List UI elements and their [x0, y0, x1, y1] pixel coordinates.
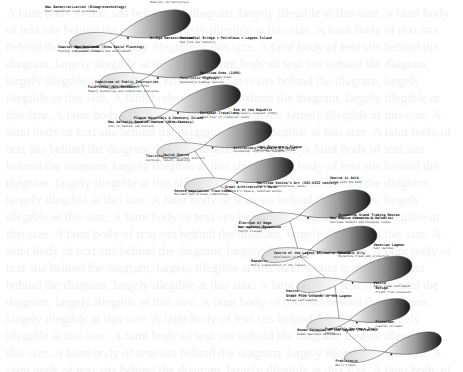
cascading-loops-diagram: New Decentralization (Bioagrotechnology)… — [0, 0, 463, 372]
loop-label-sub: Trade with the East — [330, 180, 362, 184]
loop-label-sub: City of fashion and tourism — [108, 124, 154, 128]
arrow-marker — [391, 354, 393, 356]
loop-label-sub: Post-capitalist local economies — [45, 9, 98, 13]
loop-label-sub: Education and governance reforms — [95, 84, 149, 88]
loop-8: Centre of the Lagoon (Rivoalto Islands)S… — [274, 243, 412, 297]
loop-10: Prehistoric Northern ItalyVenetiPrehisto… — [325, 327, 441, 367]
loop-label-sub: Lost maritime power — [200, 75, 232, 79]
loop-label-sub: Automobile highway network — [180, 80, 224, 84]
loop-label-sub: Early organization of the lagoon — [251, 263, 305, 267]
loop-label-sub: Segregated urban district — [163, 156, 205, 160]
loop-lobe-right — [345, 256, 412, 283]
loop-label-sub: Lazzaretto islands and quarantine — [134, 120, 190, 124]
loop-label-sub: Merchant and artisan communities — [174, 192, 228, 196]
loop-label-sub: Decline of trade routes — [257, 148, 296, 152]
arrow-marker — [307, 217, 309, 219]
arrow-marker — [352, 282, 354, 284]
arrow-marker — [157, 77, 159, 79]
loop-lobe-right — [120, 10, 190, 38]
loop-label-sub: Coastal villages — [376, 324, 403, 328]
loop-label-sub: Early tribes — [335, 363, 356, 367]
arrow-marker — [177, 112, 179, 114]
loop-label-sub: Regional planning and development — [75, 49, 131, 53]
loop-label-sub: Salt marshes — [374, 246, 395, 250]
loop-label-sub: Sea link and industry — [180, 40, 216, 44]
loop-label-sub: St. Mark's Square, Venetian Gothic — [225, 189, 283, 193]
loop-lobe-right — [350, 299, 410, 323]
loop-lobe-right — [310, 226, 377, 253]
loop-label-sub: Settlement of Rialto — [274, 255, 308, 259]
loop-lobe-right — [385, 332, 441, 354]
loop-label-sub: Refuge settlements — [286, 298, 317, 302]
loops-layer: New Decentralization (Bioagrotechnology)… — [45, 0, 441, 367]
arrow-marker — [236, 182, 238, 184]
loop-label-sub: Emergence of statehood — [239, 225, 276, 229]
arrow-marker — [356, 322, 358, 324]
loop-lobe-right — [170, 85, 240, 113]
loop-label-sub: Fourth Crusade — [238, 229, 262, 233]
arrow-marker — [212, 147, 214, 149]
loop-lobe-right — [230, 157, 293, 182]
loop-label-sub: Modern technology and industrial discour… — [88, 89, 159, 93]
loop-label-sub: Eastern Mediterranean — [339, 216, 375, 220]
loop-label-sub: Veneti — [325, 331, 335, 335]
loop-label-sub: Napoleonic conquest (1797) — [234, 111, 278, 115]
loop-label-sub: Flight from invasions — [376, 290, 412, 294]
loop-label-sub: Mobility infrastructure — [150, 0, 189, 4]
arrow-marker — [127, 37, 129, 39]
loop-lobe-left — [297, 278, 345, 293]
